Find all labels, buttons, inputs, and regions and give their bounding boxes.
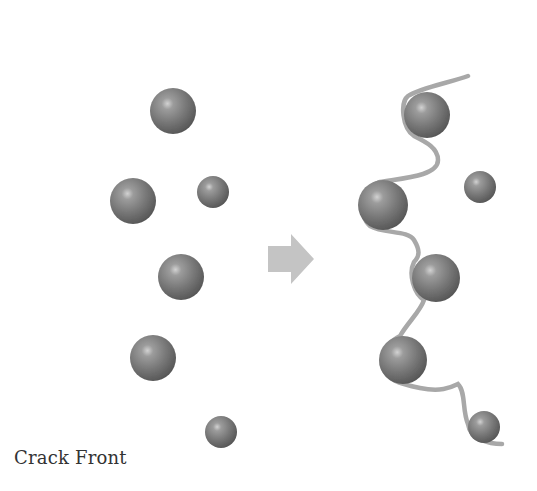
particle-right-1 [404,92,450,138]
right-arrow-icon [268,234,314,284]
particle-right-6 [468,411,500,443]
particle-right-2 [358,180,408,230]
particle-left-4 [158,254,204,300]
crack-front-label: Crack Front [14,447,127,468]
particles-left-group [110,88,237,448]
particle-left-5 [130,335,176,381]
particle-right-3 [464,171,496,203]
particle-left-6 [205,416,237,448]
particle-right-5 [379,336,427,384]
particle-left-1 [150,88,196,134]
crack-pinning-diagram [0,0,537,491]
particle-left-2 [110,178,156,224]
particle-right-4 [412,254,460,302]
particle-left-3 [197,176,229,208]
